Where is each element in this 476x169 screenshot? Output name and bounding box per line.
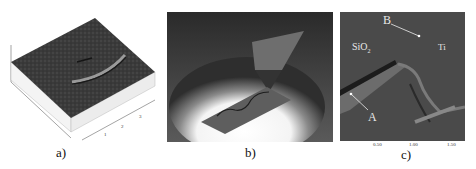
afm-image-render: [340, 12, 465, 141]
panel-a-caption: a): [56, 145, 66, 161]
point-a-label: A: [368, 110, 377, 125]
afm-tip-render: [167, 12, 333, 142]
cropped-text-line: [0, 165, 476, 169]
panel-c-afm-image: B SiO2 Ti A: [340, 12, 465, 141]
sio2-label-text: SiO: [352, 41, 368, 52]
ti-label: Ti: [438, 42, 446, 52]
panel-c-xtick-050: 0.50: [373, 142, 382, 147]
panel-b-caption: b): [245, 145, 256, 161]
panel-a-tick-3: 3: [139, 114, 142, 119]
panel-a-tick-1: 1: [104, 132, 107, 137]
panel-a-afm-3d: 1 2 3: [0, 0, 160, 150]
afm-3d-surface-illustration: [0, 0, 160, 150]
panel-c-xtick-150: 1.50: [447, 142, 456, 147]
sio2-label: SiO2: [352, 41, 371, 54]
point-b-label: B: [383, 13, 391, 28]
panel-c-caption: c): [401, 147, 411, 163]
sio2-label-sub: 2: [368, 48, 371, 54]
panel-b-tip-illustration: [167, 12, 333, 142]
panel-a-tick-2: 2: [121, 124, 124, 129]
